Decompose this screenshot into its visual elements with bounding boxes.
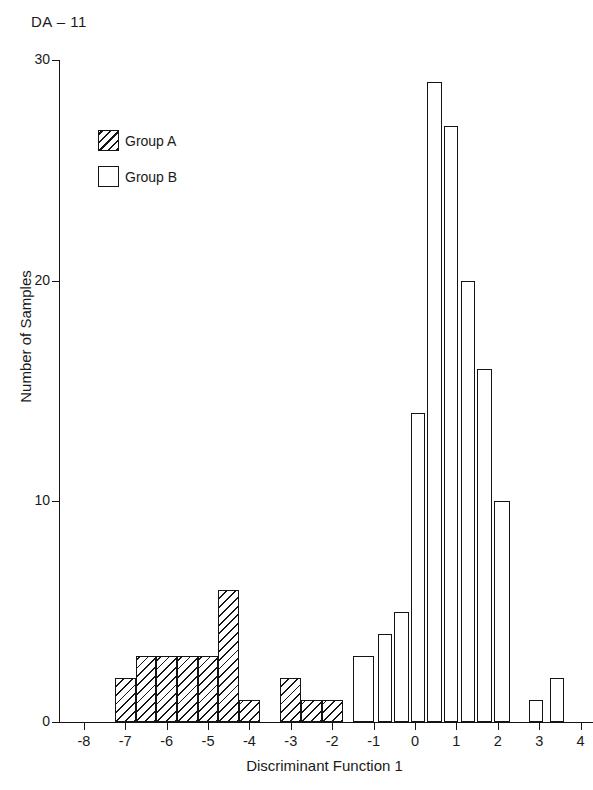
- bar: [411, 413, 425, 722]
- empty-square-icon: [98, 166, 119, 187]
- bar: [444, 126, 458, 722]
- x-tick--4: [249, 722, 250, 730]
- bar: [301, 700, 322, 722]
- x-tick-label--6: -6: [147, 733, 187, 749]
- x-tick-label-2: 2: [478, 733, 518, 749]
- x-tick-label--5: -5: [188, 733, 228, 749]
- legend-label-group-b: Group B: [125, 169, 177, 185]
- bar: [394, 612, 408, 722]
- x-tick--6: [167, 722, 168, 730]
- bar: [177, 656, 198, 722]
- x-tick-3: [539, 722, 540, 730]
- bar: [218, 590, 239, 722]
- x-tick-label--7: -7: [105, 733, 145, 749]
- bar: [477, 369, 491, 722]
- bar: [529, 700, 543, 722]
- panel-label: DA – 11: [31, 13, 87, 30]
- y-axis-label: Number of Samples: [17, 217, 34, 457]
- x-tick--2: [332, 722, 333, 730]
- bar: [427, 82, 441, 722]
- x-tick--1: [374, 722, 375, 730]
- x-tick--8: [84, 722, 85, 730]
- bar: [322, 700, 343, 722]
- x-tick-2: [498, 722, 499, 730]
- y-tick-label-0: 0: [4, 713, 50, 729]
- bar: [115, 678, 136, 722]
- x-tick--3: [291, 722, 292, 730]
- bar: [198, 656, 219, 722]
- x-axis-label-text: Discriminant Function 1: [246, 757, 403, 774]
- bar: [353, 656, 374, 722]
- bar: [378, 634, 392, 722]
- x-tick-label--8: -8: [64, 733, 104, 749]
- bar: [239, 700, 260, 722]
- legend-item-group-a: Group A: [98, 130, 177, 151]
- x-tick-label-4: 4: [561, 733, 593, 749]
- x-tick--7: [125, 722, 126, 730]
- bar: [461, 281, 475, 722]
- legend: Group A Group B: [98, 130, 177, 202]
- bar: [550, 678, 564, 722]
- bar: [494, 501, 511, 722]
- x-tick-0: [415, 722, 416, 730]
- x-tick-label-3: 3: [519, 733, 559, 749]
- x-axis-line: [59, 722, 593, 723]
- legend-item-group-b: Group B: [98, 166, 177, 187]
- y-tick-0: [52, 722, 60, 723]
- x-tick-4: [581, 722, 582, 730]
- x-tick-label--3: -3: [271, 733, 311, 749]
- x-tick-1: [456, 722, 457, 730]
- hatched-square-icon: [98, 130, 119, 151]
- bar: [136, 656, 157, 722]
- x-tick-label--2: -2: [312, 733, 352, 749]
- x-tick-label--4: -4: [229, 733, 269, 749]
- y-tick-label-10: 10: [4, 492, 50, 508]
- x-tick-label-1: 1: [436, 733, 476, 749]
- bar: [280, 678, 301, 722]
- x-axis-label: Discriminant Function 1: [0, 757, 593, 774]
- x-tick--5: [208, 722, 209, 730]
- y-tick-label-30: 30: [4, 51, 50, 67]
- histogram-figure: DA – 11 0102030 -8-7-6-5-4-3-2-101234 Gr…: [0, 0, 593, 790]
- legend-label-group-a: Group A: [125, 133, 176, 149]
- x-tick-label--1: -1: [354, 733, 394, 749]
- bar: [156, 656, 177, 722]
- x-tick-label-0: 0: [395, 733, 435, 749]
